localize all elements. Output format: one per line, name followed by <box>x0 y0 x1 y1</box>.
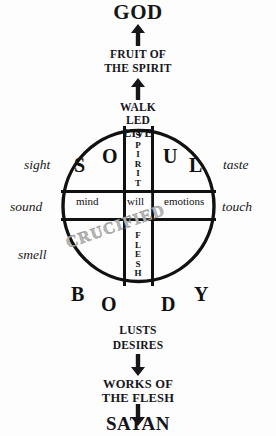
the-flesh-label: THE FLESH <box>0 392 276 405</box>
letter-y: Y <box>194 284 208 304</box>
walk-label: WALK <box>0 102 276 114</box>
letter-d: D <box>161 294 175 314</box>
sense-sight: sight <box>24 158 50 172</box>
letter-u: U <box>163 146 177 166</box>
letter-b: B <box>71 284 84 304</box>
will-label: will <box>127 196 144 207</box>
works-of-label: WORKS OF <box>0 378 276 391</box>
flesh-vertical-label: FLESH <box>130 231 146 279</box>
arrow-up-to-fruit-icon <box>129 78 147 100</box>
arrow-up-to-god-icon <box>129 24 147 46</box>
mind-label: mind <box>76 196 99 207</box>
satan-label: SATAN <box>0 414 276 433</box>
emotions-label: emotions <box>164 196 204 207</box>
arrow-down-to-works-icon <box>129 354 147 376</box>
sense-smell: smell <box>18 248 47 262</box>
sense-taste: taste <box>223 158 249 172</box>
letter-s: S <box>74 155 85 175</box>
the-spirit-label: THE SPIRIT <box>0 63 276 75</box>
led-label: LED <box>0 115 276 127</box>
desires-label: DESIRES <box>0 340 276 352</box>
diagram-canvas: GOD FRUIT OF THE SPIRIT WALK LED LIVE S … <box>0 0 276 436</box>
sense-touch: touch <box>222 200 252 214</box>
letter-l: L <box>189 155 202 175</box>
fruit-of-label: FRUIT OF <box>0 49 276 61</box>
letter-o-body: O <box>101 294 117 314</box>
sense-sound: sound <box>10 200 42 214</box>
god-label: GOD <box>0 2 276 23</box>
letter-o: O <box>102 146 118 166</box>
lusts-label: LUSTS <box>0 325 276 337</box>
spirit-vertical-label: SPIRIT <box>130 131 146 189</box>
